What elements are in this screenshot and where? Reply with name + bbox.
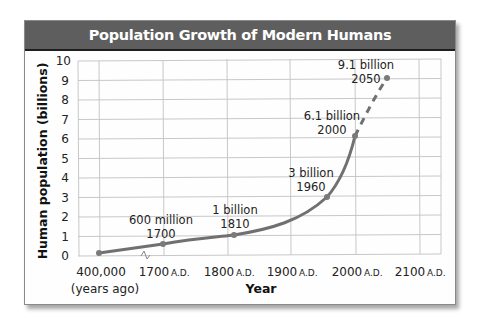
svg-text:6.1 billion: 6.1 billion [304, 109, 360, 123]
svg-text:2: 2 [61, 210, 69, 224]
svg-text:7: 7 [61, 113, 69, 127]
axis-break-icon [141, 251, 150, 259]
svg-text:1: 1 [61, 230, 69, 244]
svg-text:1810: 1810 [220, 217, 249, 231]
svg-text:10: 10 [56, 54, 71, 68]
svg-text:1700: 1700 [146, 227, 175, 241]
svg-text:1 billion: 1 billion [212, 203, 257, 217]
svg-text:3: 3 [61, 191, 69, 205]
svg-text:2100: 2100 [395, 265, 426, 279]
svg-text:A.D.: A.D. [236, 268, 255, 278]
svg-text:3 billion: 3 billion [288, 166, 333, 180]
annotations: 600 million 1700 1 billion 1810 3 billio… [129, 58, 394, 241]
svg-text:4: 4 [61, 171, 69, 185]
chart-card: Population Growth of Modern Humans [24, 20, 456, 305]
y-axis-ticks: 0 1 2 3 4 5 6 7 8 9 10 [56, 54, 71, 263]
svg-text:1800: 1800 [204, 265, 235, 279]
svg-text:A.D.: A.D. [171, 268, 190, 278]
svg-text:A.D.: A.D. [299, 268, 318, 278]
svg-text:400,000: 400,000 [76, 265, 126, 279]
svg-text:8: 8 [61, 93, 69, 107]
svg-text:2050: 2050 [351, 72, 380, 86]
svg-text:2000: 2000 [317, 123, 346, 137]
svg-text:0: 0 [61, 249, 69, 263]
svg-text:1700: 1700 [139, 265, 170, 279]
svg-text:9.1 billion: 9.1 billion [338, 58, 394, 72]
svg-text:2000: 2000 [332, 265, 363, 279]
svg-text:(years ago): (years ago) [71, 282, 140, 296]
svg-text:1900: 1900 [267, 265, 298, 279]
svg-text:A.D.: A.D. [364, 268, 383, 278]
svg-text:6: 6 [61, 132, 69, 146]
svg-text:A.D.: A.D. [427, 268, 446, 278]
svg-text:1960: 1960 [296, 180, 325, 194]
svg-text:5: 5 [61, 152, 69, 166]
svg-text:9: 9 [61, 74, 69, 88]
x-axis-label: Year [245, 281, 278, 296]
y-axis-label: Human population (billions) [35, 63, 50, 260]
svg-text:600 million: 600 million [129, 213, 193, 227]
projection-curve [355, 78, 387, 136]
chart-plot: 0 1 2 3 4 5 6 7 8 9 10 Human population … [25, 21, 455, 304]
